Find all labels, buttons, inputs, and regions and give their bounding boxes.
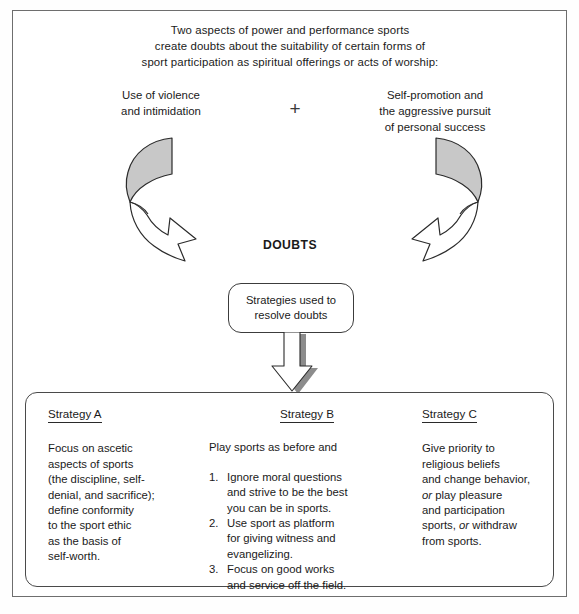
doubts-label: DOUBTS	[232, 238, 348, 252]
down-arrow-icon	[262, 332, 320, 394]
aspect-left-line-1: Use of violence	[78, 87, 244, 103]
strategy-c-text: from sports.	[422, 535, 482, 547]
strategy-c-text: and change behavior,	[422, 473, 530, 485]
strategy-b-lead: Play sports as before and	[209, 440, 405, 455]
curved-arrow-counterclockwise-icon	[394, 136, 486, 266]
aspect-right-line-3: of personal success	[347, 119, 523, 135]
list-item-line: for giving witness and	[227, 532, 336, 544]
list-item-line: Focus on good works	[227, 563, 334, 575]
strategy-b-list: 1. Ignore moral questions and strive to …	[209, 470, 405, 593]
header-statement: Two aspects of power and performance spo…	[40, 22, 540, 71]
aspect-right-line-2: the aggressive pursuit	[347, 103, 523, 119]
list-item-line: Ignore moral questions	[227, 471, 342, 483]
strategy-column-c: Strategy C Give priority toreligious bel…	[422, 406, 562, 549]
strategy-column-b: Strategy B Play sports as before and 1. …	[209, 406, 405, 593]
list-item-number: 1.	[209, 470, 218, 485]
strategies-box-line-1: Strategies used to	[246, 293, 336, 308]
strategies-box: Strategies used to resolve doubts	[228, 283, 354, 333]
strategy-c-text: sports,	[422, 519, 459, 531]
list-item: 1. Ignore moral questions and strive to …	[209, 470, 405, 516]
strategy-a-body: Focus on ascetic aspects of sports (the …	[48, 441, 198, 564]
strategy-c-title: Strategy C	[422, 406, 477, 423]
strategy-column-a: Strategy A Focus on ascetic aspects of s…	[48, 406, 198, 565]
strategy-b-body: Play sports as before and 1. Ignore mora…	[209, 440, 405, 593]
strategy-c-text: play pleasure	[432, 489, 502, 501]
strategy-a-line: as the basis of	[48, 534, 198, 549]
list-item-line: and service off the field.	[227, 579, 346, 591]
strategy-c-text: and participation	[422, 504, 505, 516]
strategy-a-title: Strategy A	[48, 406, 102, 423]
strategy-c-body: Give priority toreligious beliefsand cha…	[422, 441, 562, 549]
aspect-left-label: Use of violence and intimidation	[78, 87, 244, 119]
strategies-box-line-2: resolve doubts	[246, 308, 336, 323]
aspect-left-line-2: and intimidation	[78, 103, 244, 119]
list-item: 2. Use sport as platform for giving witn…	[209, 516, 405, 562]
list-item-line: evangelizing.	[227, 548, 293, 560]
strategy-a-line: to the sport ethic	[48, 518, 198, 533]
strategy-c-text: withdraw	[469, 519, 517, 531]
strategy-a-line: define conformity	[48, 503, 198, 518]
strategy-c-text: Give priority to	[422, 442, 495, 454]
list-item-line: you can be in sports.	[227, 502, 331, 514]
aspect-right-label: Self-promotion and the aggressive pursui…	[347, 87, 523, 136]
strategy-a-line: Focus on ascetic	[48, 441, 198, 456]
diagram-page: Two aspects of power and performance spo…	[0, 0, 579, 614]
strategy-b-title: Strategy B	[280, 406, 334, 423]
header-line-3: sport participation as spiritual offerin…	[40, 54, 540, 70]
strategy-c-emphasis: or	[459, 519, 469, 531]
list-item-line: and strive to be the best	[227, 486, 348, 498]
list-item-number: 2.	[209, 516, 218, 531]
curved-arrow-clockwise-icon	[122, 136, 214, 266]
strategy-a-line: aspects of sports	[48, 457, 198, 472]
header-line-2: create doubts about the suitability of c…	[40, 38, 540, 54]
strategy-a-line: (the discipline, self-	[48, 472, 198, 487]
list-item: 3. Focus on good works and service off t…	[209, 562, 405, 593]
plus-operator: +	[273, 99, 317, 119]
header-line-1: Two aspects of power and performance spo…	[40, 22, 540, 38]
aspect-right-line-1: Self-promotion and	[347, 87, 523, 103]
strategy-a-line: denial, and sacrifice);	[48, 488, 198, 503]
list-item-line: Use sport as platform	[227, 517, 334, 529]
strategy-c-emphasis: or	[422, 489, 432, 501]
strategy-c-text: religious beliefs	[422, 458, 500, 470]
strategies-panel: Strategy A Focus on ascetic aspects of s…	[25, 392, 554, 587]
strategy-a-line: self-worth.	[48, 549, 198, 564]
list-item-number: 3.	[209, 562, 218, 577]
